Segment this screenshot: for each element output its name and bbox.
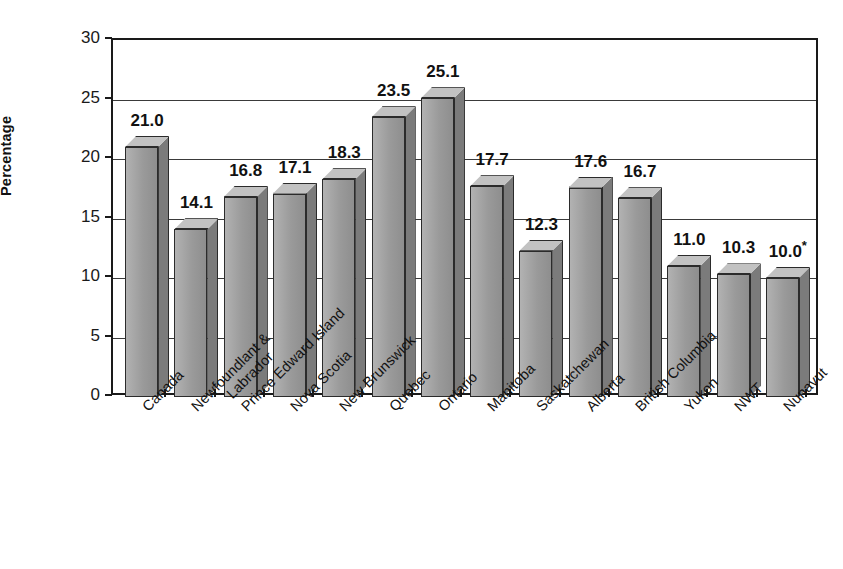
chart-page: Percentage 302520151050 21.014.116.817.1… [0, 0, 843, 569]
bar-value-label: 14.1 [180, 193, 213, 213]
bar-side-face [158, 136, 169, 397]
bar-value-label: 21.0 [131, 111, 164, 131]
bar-value-label: 11.0 [673, 230, 705, 250]
bar-value-label: 23.5 [377, 81, 410, 101]
bar-side-face [602, 177, 613, 397]
footnote-asterisk: * [802, 238, 807, 253]
bar-side-face [750, 263, 761, 397]
bar-side-face [503, 175, 514, 397]
bar-value-label: 17.6 [574, 152, 607, 172]
bar-front-face [766, 278, 799, 397]
bar-value-label: 12.3 [525, 215, 558, 235]
bar-side-face [355, 168, 366, 397]
bar-value-label: 18.3 [328, 143, 361, 163]
bar-front-face [125, 147, 158, 397]
bar-value-label: 16.8 [229, 161, 262, 181]
bar-side-face [651, 187, 662, 397]
bar-front-face [470, 186, 503, 397]
y-tick-label: 30 [56, 28, 100, 48]
bar-front-face [618, 198, 651, 397]
bar-value-label: 16.7 [623, 162, 656, 182]
bar-side-face [306, 183, 317, 397]
y-tick-label: 15 [56, 207, 100, 227]
bar-front-face [421, 98, 454, 397]
bar-value-label: 17.7 [476, 150, 509, 170]
y-tick-label: 20 [56, 147, 100, 167]
bar-value-label: 17.1 [278, 158, 311, 178]
bar-front-face [717, 274, 750, 397]
y-tick-label: 10 [56, 266, 100, 286]
bar-value-label: 25.1 [426, 62, 459, 82]
y-tick-label: 0 [56, 385, 100, 405]
y-tick-label: 5 [56, 326, 100, 346]
bar-value-label: 10.3 [722, 238, 755, 258]
bar-side-face [207, 218, 218, 397]
bar-value-label: 10.0* [769, 242, 807, 262]
y-tick-label: 25 [56, 88, 100, 108]
y-axis-title: Percentage [0, 116, 14, 196]
bar-side-face [454, 87, 465, 397]
